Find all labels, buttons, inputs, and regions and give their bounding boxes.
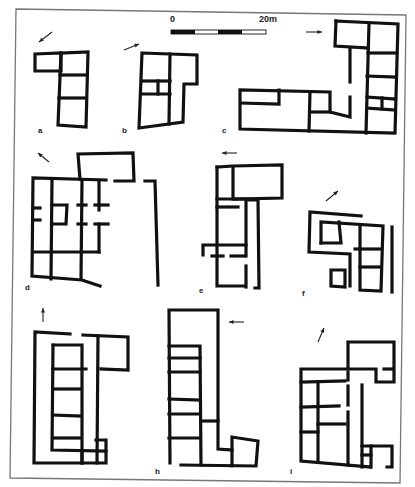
plan-label: a	[38, 126, 43, 135]
scale-end-label: 20m	[259, 14, 277, 24]
plan-label: c	[222, 126, 227, 135]
plan-a: a	[35, 32, 88, 135]
plan-label: f	[302, 289, 305, 298]
wall	[52, 205, 67, 224]
plan-i: i	[290, 328, 394, 476]
wall	[145, 181, 158, 285]
wall	[335, 21, 368, 48]
orientation-arrow-icon	[229, 320, 244, 324]
plan-h: h	[155, 310, 258, 476]
wall	[35, 53, 61, 71]
plan-c: c	[222, 21, 398, 135]
scale-bar: 0 20m	[170, 14, 277, 34]
plan-g	[34, 308, 128, 463]
orientation-arrow-icon	[38, 153, 49, 162]
wall	[301, 406, 339, 407]
building-plans-figure: 0 20m abcdefhi	[0, 0, 415, 487]
orientation-arrow-icon	[124, 44, 139, 50]
wall	[83, 335, 128, 370]
orientation-arrow-icon	[306, 30, 322, 34]
plans-group: abcdefhi	[25, 21, 398, 476]
plan-b: b	[122, 44, 197, 135]
wall	[249, 200, 259, 288]
wall	[301, 381, 345, 382]
orientation-arrow-icon	[41, 308, 45, 322]
wall	[169, 399, 200, 400]
scale-start-label: 0	[170, 14, 175, 24]
wall	[32, 178, 106, 286]
wall	[34, 332, 106, 463]
wall	[53, 415, 81, 416]
scale-segment	[171, 30, 183, 34]
scale-segment	[218, 30, 242, 34]
orientation-arrow-icon	[318, 328, 324, 342]
wall	[169, 54, 170, 124]
orientation-arrow-icon	[39, 32, 52, 42]
plan-label: h	[155, 467, 160, 476]
wall	[367, 76, 396, 77]
plan-d: d	[25, 153, 158, 292]
plan-f: f	[302, 191, 392, 298]
wall	[321, 222, 341, 243]
plan-label: b	[122, 126, 127, 135]
wall	[81, 180, 82, 279]
plan-label: e	[199, 286, 204, 295]
plan-label: i	[290, 467, 292, 476]
wall	[53, 345, 82, 463]
wall	[203, 245, 246, 255]
wall	[331, 270, 345, 287]
wall	[169, 346, 201, 465]
orientation-arrow-icon	[222, 151, 237, 155]
plan-label: d	[25, 283, 30, 292]
plan-e: e	[199, 151, 282, 295]
orientation-arrow-icon	[326, 191, 338, 201]
wall	[78, 153, 134, 181]
wall	[366, 24, 369, 133]
wall	[217, 165, 282, 199]
wall	[217, 167, 244, 286]
wall	[97, 336, 98, 463]
wall	[51, 179, 52, 279]
scale-segment	[183, 30, 195, 34]
